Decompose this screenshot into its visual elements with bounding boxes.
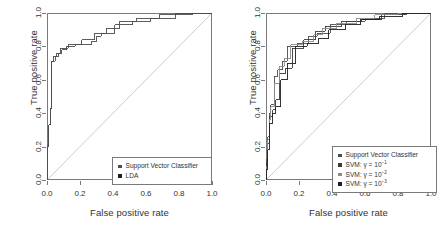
x-tick-label: 0.6 (140, 189, 151, 198)
x-tick-label: 1.0 (206, 189, 217, 198)
legend-entry[interactable]: Support Vector Classifier (118, 162, 205, 171)
legend-right[interactable]: Support Vector ClassifierSVM: γ = 10−1SV… (332, 146, 437, 193)
roc-figure: 0.00.20.40.60.81.0 0.00.20.40.60.81.0 Fa… (0, 0, 437, 234)
x-tick-mark (299, 181, 300, 185)
roc-panel-right: 0.00.20.40.60.81.0 0.00.20.40.60.81.0 Fa… (219, 0, 437, 234)
legend-exponent: −2 (382, 170, 387, 175)
legend-exponent: −3 (382, 179, 387, 184)
x-tick-label: 0.0 (41, 189, 52, 198)
x-axis-label-left: False positive rate (47, 207, 212, 218)
legend-entry[interactable]: LDA (118, 172, 205, 181)
chance-diagonal-line (47, 13, 212, 180)
x-tick-mark (212, 181, 213, 185)
x-tick-label: 0.4 (107, 189, 118, 198)
x-tick-mark (266, 181, 267, 185)
legend-label: SVM: γ = 10−2 (346, 171, 387, 179)
x-axis-label-right: False positive rate (266, 207, 431, 218)
legend-swatch-square-icon (338, 182, 342, 186)
roc-curves-left (47, 13, 212, 180)
x-tick-labels-left: 0.00.20.40.60.81.0 (47, 189, 212, 201)
x-tick-mark (47, 181, 48, 185)
legend-entry[interactable]: SVM: γ = 10−3 (338, 180, 430, 189)
legend-swatch-square-icon (118, 174, 122, 178)
x-tick-label: 0.0 (260, 189, 271, 198)
legend-swatch-square-icon (338, 163, 342, 167)
x-tick-label: 0.2 (293, 189, 304, 198)
legend-entry[interactable]: SVM: γ = 10−1 (338, 161, 430, 170)
y-axis-label-left: True positive rate (28, 0, 39, 148)
legend-exponent: −1 (382, 160, 387, 165)
legend-entry[interactable]: SVM: γ = 10−2 (338, 170, 430, 179)
legend-swatch-square-icon (118, 165, 122, 169)
x-tick-label: 0.2 (74, 189, 85, 198)
legend-label: Support Vector Classifier (126, 163, 199, 170)
legend-entry[interactable]: Support Vector Classifier (338, 151, 430, 160)
legend-label: SVM: γ = 10−3 (346, 180, 387, 188)
y-tick-label: 0.0 (34, 174, 43, 185)
legend-left[interactable]: Support Vector ClassifierLDA (112, 157, 212, 185)
legend-label: Support Vector Classifier (346, 152, 419, 159)
y-tick-label: 0.0 (253, 174, 262, 185)
plot-area-left (47, 13, 212, 180)
x-tick-mark (80, 181, 81, 185)
roc-panel-left: 0.00.20.40.60.81.0 0.00.20.40.60.81.0 Fa… (0, 0, 218, 234)
legend-swatch-square-icon (338, 173, 342, 177)
legend-label: SVM: γ = 10−1 (346, 161, 387, 169)
legend-label: LDA (126, 173, 139, 180)
legend-swatch-square-icon (338, 154, 342, 158)
y-axis-label-right: True positive rate (247, 0, 258, 148)
x-tick-label: 0.8 (173, 189, 184, 198)
